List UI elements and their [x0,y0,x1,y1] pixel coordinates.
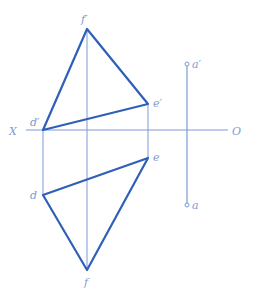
label-e-prime: e′ [153,97,163,110]
triangle-front-view [43,29,148,130]
label-d: d [30,189,37,202]
label-f: f [83,276,90,289]
label-d-prime: d′ [30,116,40,129]
axis-label-x: X [8,125,18,138]
projection-diagram: X O d′ f′ e′ d e f a′ a [0,0,259,297]
label-e: e [153,151,160,164]
axis-label-o: O [232,125,241,138]
label-a-prime: a′ [192,58,202,71]
diagram-canvas: X O d′ f′ e′ d e f a′ a [0,0,259,297]
label-a: a [192,199,199,212]
point-a-marker [185,203,189,207]
triangle-top-view [43,158,148,270]
label-f-prime: f′ [80,13,88,26]
point-a-prime-marker [185,62,189,66]
